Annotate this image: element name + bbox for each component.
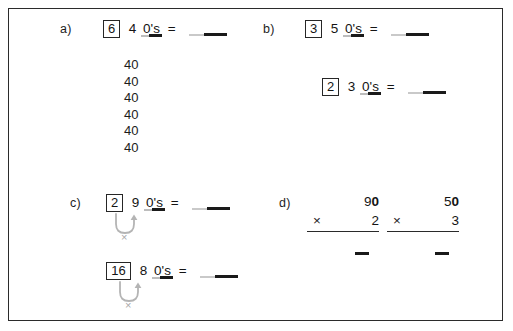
multiplicand-zero-d-2: 0 bbox=[451, 194, 459, 209]
vertical-multiplication-d-1: 90 ×2 bbox=[307, 192, 383, 262]
multiplicand-a: 4 bbox=[129, 20, 137, 38]
operator-d-1: × bbox=[307, 211, 321, 230]
expression-b-1: 3 5 0's = bbox=[305, 20, 429, 38]
multiplier-row: ×3 bbox=[387, 211, 463, 230]
addend-item: 40 bbox=[124, 57, 138, 74]
multiplicand-c-2: 8 bbox=[140, 262, 148, 280]
boxed-answer-b-2[interactable]: 2 bbox=[322, 78, 339, 96]
addend-item: 40 bbox=[124, 90, 138, 107]
blank-tick bbox=[152, 208, 165, 211]
blank-under-zeros-b-2[interactable] bbox=[360, 92, 382, 96]
expression-a: 6 4 0's = bbox=[103, 20, 227, 38]
blank-tick bbox=[207, 207, 230, 210]
zeros-token-c-2: 0's bbox=[154, 262, 171, 280]
multiplicand-row: 90 bbox=[307, 192, 383, 211]
blank-lead bbox=[408, 92, 424, 94]
worksheet-border bbox=[8, 8, 503, 321]
addend-item: 40 bbox=[124, 123, 138, 140]
section-label-c: c) bbox=[70, 196, 81, 210]
equals-sign-b-2: = bbox=[387, 78, 395, 96]
multiplicand-c-1: 9 bbox=[132, 194, 140, 212]
curved-arrow-icon bbox=[114, 280, 158, 306]
multiply-arrow-c-1: × bbox=[110, 212, 154, 246]
blank-lead bbox=[391, 34, 407, 36]
blank-lead bbox=[189, 34, 205, 36]
product-blank-d-1[interactable] bbox=[307, 232, 383, 262]
zeros-token-b-1: 0's bbox=[345, 20, 362, 38]
vertical-multiplication-d-2: 50 ×3 bbox=[387, 192, 463, 262]
multiplicand-row: 50 bbox=[387, 192, 463, 211]
expression-c-2: 16 8 0's = bbox=[106, 262, 238, 280]
multiplier-row: ×2 bbox=[307, 211, 383, 230]
product-blank-d-2[interactable] bbox=[387, 232, 463, 262]
operator-d-2: × bbox=[387, 211, 401, 230]
blank-tick bbox=[423, 91, 446, 94]
multiplier-d-1: 2 bbox=[371, 213, 379, 228]
blank-lead bbox=[200, 276, 216, 278]
expression-c-1: 2 9 0's = bbox=[106, 194, 230, 212]
section-label-a: a) bbox=[60, 22, 72, 36]
boxed-answer-a[interactable]: 6 bbox=[103, 20, 120, 38]
answer-blank-b-1[interactable] bbox=[391, 22, 429, 36]
multiply-arrow-c-2: × bbox=[114, 280, 158, 314]
blank-tick bbox=[368, 92, 381, 95]
multiply-symbol-c-2: × bbox=[125, 300, 131, 311]
equals-sign-c-1: = bbox=[171, 194, 179, 212]
multiplier-d-2: 3 bbox=[451, 213, 459, 228]
answer-blank-a[interactable] bbox=[189, 22, 227, 36]
answer-blank-c-1[interactable] bbox=[192, 196, 230, 210]
boxed-answer-c-1[interactable]: 2 bbox=[106, 194, 123, 212]
equals-sign-b-1: = bbox=[370, 20, 378, 38]
addend-item: 40 bbox=[124, 140, 138, 157]
expression-b-2: 2 3 0's = bbox=[322, 78, 446, 96]
blank-tick bbox=[355, 252, 369, 255]
blank-tick bbox=[406, 33, 429, 36]
boxed-answer-b-1[interactable]: 3 bbox=[305, 20, 322, 38]
blank-under-zeros-a[interactable] bbox=[141, 34, 163, 38]
blank-under-zeros-b-1[interactable] bbox=[343, 34, 365, 38]
section-label-b: b) bbox=[263, 22, 275, 36]
answer-blank-b-2[interactable] bbox=[408, 80, 446, 94]
section-label-d: d) bbox=[279, 196, 291, 210]
blank-tick bbox=[160, 276, 173, 279]
blank-lead bbox=[192, 208, 208, 210]
worksheet-page: a) 6 4 0's = 40 40 40 40 40 40 b) 3 5 0'… bbox=[0, 0, 513, 331]
answer-blank-c-2[interactable] bbox=[200, 264, 238, 278]
multiplicand-b-2: 3 bbox=[348, 78, 356, 96]
zeros-token-b-2: 0's bbox=[362, 78, 379, 96]
zeros-token-c-1: 0's bbox=[146, 194, 163, 212]
zeros-token-a: 0's bbox=[143, 20, 160, 38]
blank-tick bbox=[204, 33, 227, 36]
addend-column-a: 40 40 40 40 40 40 bbox=[124, 57, 138, 156]
equals-sign-c-2: = bbox=[179, 262, 187, 280]
blank-tick bbox=[149, 34, 162, 37]
curved-arrow-icon bbox=[110, 212, 154, 238]
equals-sign-a: = bbox=[168, 20, 176, 38]
multiplicand-zero-d-1: 0 bbox=[371, 194, 379, 209]
addend-item: 40 bbox=[124, 74, 138, 91]
addend-item: 40 bbox=[124, 107, 138, 124]
blank-tick bbox=[215, 275, 238, 278]
multiply-symbol-c-1: × bbox=[121, 232, 127, 243]
boxed-answer-c-2[interactable]: 16 bbox=[106, 262, 131, 280]
blank-tick bbox=[351, 34, 364, 37]
blank-tick bbox=[435, 252, 449, 255]
multiplicand-b-1: 5 bbox=[331, 20, 339, 38]
